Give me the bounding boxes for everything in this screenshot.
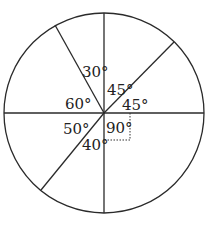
angle-label-45-right: 45°	[122, 96, 149, 114]
angle-label-40: 40°	[82, 136, 109, 154]
angle-label-90: 90°	[106, 119, 133, 137]
angle-label-30: 30°	[82, 63, 109, 81]
circle-angle-diagram: 30° 45° 60° 45° 50° 90° 40°	[0, 0, 215, 233]
angle-label-60: 60°	[65, 95, 92, 113]
